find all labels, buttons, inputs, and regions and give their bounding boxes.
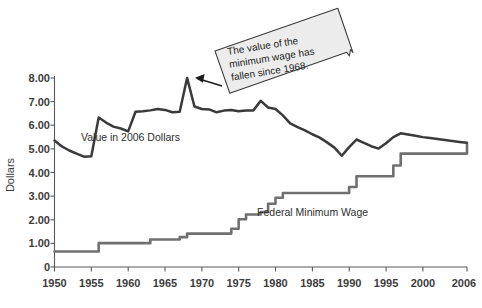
- x-tick-label-1950: 1950: [42, 277, 66, 289]
- x-tick-label-1970: 1970: [190, 277, 214, 289]
- x-tick-label-1985: 1985: [300, 277, 324, 289]
- x-tick-label-2006: 2006: [452, 277, 476, 289]
- y-tick-label-5: 5.00: [29, 143, 50, 155]
- x-axis-tick-labels: 1950 1955 1960 1965 1970 1975 1980 1985 …: [42, 277, 476, 289]
- x-tick-label-1980: 1980: [263, 277, 287, 289]
- minimum-wage-chart: Dollars 0 1.00 2.00 3.00 4.00 5.00 6.00 …: [0, 0, 482, 308]
- y-tick-label-7: 7.00: [29, 96, 50, 108]
- y-tick-label-0: 0: [44, 261, 50, 273]
- x-tick-label-1955: 1955: [79, 277, 103, 289]
- series-line-federal-minimum-wage: [55, 144, 468, 251]
- y-tick-label-3: 3.00: [29, 190, 50, 202]
- series-label-federal-minimum-wage: Federal Minimum Wage: [257, 206, 368, 218]
- x-tick-label-1975: 1975: [226, 277, 250, 289]
- y-tick-label-1: 1.00: [29, 237, 50, 249]
- annotation-callout: The value of the minimum wage has fallen…: [195, 7, 356, 94]
- y-tick-label-4: 4.00: [29, 167, 50, 179]
- chart-canvas: Dollars 0 1.00 2.00 3.00 4.00 5.00 6.00 …: [0, 0, 482, 308]
- y-axis-ticks: [51, 78, 55, 267]
- y-axis-title: Dollars: [4, 157, 16, 192]
- x-axis-ticks: [55, 267, 468, 272]
- y-tick-label-8: 8.00: [29, 72, 50, 84]
- series-label-value-in-2006-dollars: Value in 2006 Dollars: [81, 131, 180, 143]
- x-tick-label-2000: 2000: [411, 277, 435, 289]
- x-tick-label-1965: 1965: [153, 277, 177, 289]
- x-tick-label-1990: 1990: [337, 277, 361, 289]
- y-tick-label-2: 2.00: [29, 214, 50, 226]
- x-tick-label-1995: 1995: [374, 277, 398, 289]
- y-tick-label-6: 6.00: [29, 119, 50, 131]
- x-tick-label-1960: 1960: [116, 277, 140, 289]
- y-axis-tick-labels: 0 1.00 2.00 3.00 4.00 5.00 6.00 7.00 8.0…: [29, 72, 50, 273]
- series-line-value-in-2006-dollars: [55, 78, 468, 157]
- callout-arrow: [195, 74, 222, 86]
